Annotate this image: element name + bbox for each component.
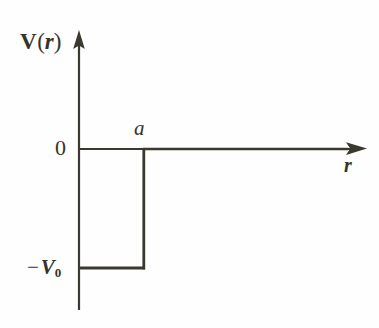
well-depth-V: V (41, 255, 55, 279)
well-edge-label: a (134, 118, 145, 139)
well-depth-subscript: 0 (55, 265, 62, 280)
x-axis-label: r (344, 155, 352, 175)
y-axis-label-open-paren: ( (37, 29, 45, 54)
zero-tick-label: 0 (55, 137, 66, 159)
well-depth-minus-sign: − (27, 255, 39, 279)
y-axis-label-r: r (45, 29, 54, 54)
potential-well-figure: V(r) 0 a −V0 r (0, 0, 379, 328)
y-axis-label-V: V (20, 29, 37, 54)
y-axis-label-close-paren: ) (54, 29, 62, 54)
well-depth-label: −V0 (27, 257, 61, 278)
y-axis-label: V(r) (20, 30, 61, 53)
